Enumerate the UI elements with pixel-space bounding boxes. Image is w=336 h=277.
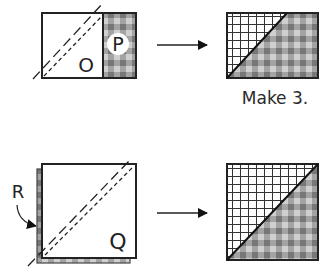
diagram-canvas: P O Q R [0, 0, 336, 277]
label-p: P [112, 33, 123, 55]
label-q: Q [109, 229, 126, 254]
row1-result-unit [227, 13, 318, 78]
make-count-caption: Make 3. [230, 88, 320, 108]
label-r: R [12, 181, 25, 202]
row2-source-unit: Q R [12, 160, 136, 266]
label-o: O [78, 53, 94, 77]
curved-arrow-r [17, 205, 36, 226]
row1-source-unit: P O [33, 3, 136, 79]
